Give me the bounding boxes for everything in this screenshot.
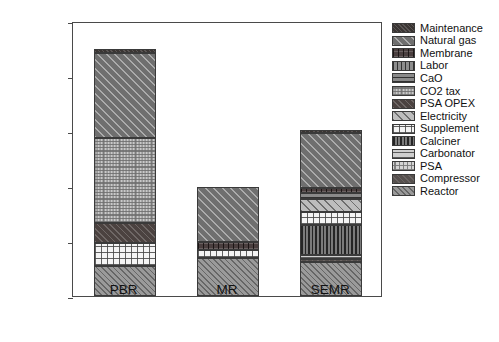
bar-segment-mr-supplement bbox=[197, 250, 259, 257]
legend-swatch-maintenance bbox=[392, 23, 415, 33]
legend-item: Natural gas bbox=[392, 35, 497, 48]
y-axis-tick-mark bbox=[68, 188, 73, 189]
legend-label: Supplement bbox=[420, 123, 479, 134]
legend-label: Electricity bbox=[420, 111, 467, 122]
bar-segment-pbr-maintenance bbox=[94, 49, 156, 54]
bar-segment-semr-compressor bbox=[300, 259, 362, 262]
plot-area bbox=[73, 23, 381, 296]
legend-swatch-compressor bbox=[392, 174, 415, 184]
legend-swatch-psa-opex bbox=[392, 99, 415, 109]
legend-label: CO2 tax bbox=[420, 86, 460, 97]
y-axis-tick-mark bbox=[68, 78, 73, 79]
legend-swatch-supplement bbox=[392, 124, 415, 134]
bar-segment-semr-cao bbox=[300, 193, 362, 199]
legend-label: PSA bbox=[420, 161, 442, 172]
y-axis-tick-mark bbox=[68, 298, 73, 299]
legend-swatch-electricity bbox=[392, 111, 415, 121]
bar-segment-mr-natural-gas bbox=[197, 187, 259, 242]
legend-swatch-cao bbox=[392, 73, 415, 83]
legend-label: Maintenance bbox=[420, 23, 483, 34]
legend-label: PSA OPEX bbox=[420, 98, 475, 109]
bar-segment-semr-maintenance bbox=[300, 130, 362, 133]
y-axis-tick-mark bbox=[68, 133, 73, 134]
legend-item: Compressor bbox=[392, 173, 497, 186]
bar-segment-pbr-psa-opex bbox=[94, 223, 156, 243]
bar-segment-pbr-natural-gas bbox=[94, 53, 156, 137]
legend-swatch-labor bbox=[392, 61, 415, 71]
legend-label: CaO bbox=[420, 73, 443, 84]
bar-segment-pbr-supplement bbox=[94, 243, 156, 266]
plot-frame bbox=[72, 22, 382, 297]
y-axis-tick-mark bbox=[68, 243, 73, 244]
legend-swatch-co2-tax bbox=[392, 86, 415, 96]
bar-segment-mr-membrane bbox=[197, 242, 259, 250]
legend-item: Reactor bbox=[392, 185, 497, 198]
bar-segment-semr-carbonator bbox=[300, 255, 362, 259]
bar-segment-semr-calciner bbox=[300, 225, 362, 255]
legend-item: CaO bbox=[392, 72, 497, 85]
chart-legend: MaintenanceNatural gasMembraneLaborCaOCO… bbox=[392, 22, 497, 198]
legend-swatch-carbonator bbox=[392, 149, 415, 159]
bar-segment-semr-supplement bbox=[300, 212, 362, 225]
legend-label: Natural gas bbox=[420, 35, 476, 46]
bar-mr bbox=[197, 187, 259, 296]
legend-label: Carbonator bbox=[420, 148, 475, 159]
legend-item: PSA OPEX bbox=[392, 97, 497, 110]
legend-item: Carbonator bbox=[392, 147, 497, 160]
legend-swatch-natural-gas bbox=[392, 36, 415, 46]
figure-stacked-bar-chart: Unit H2 production cost/ USD kg-1 Mainte… bbox=[0, 0, 499, 342]
legend-label: Membrane bbox=[420, 48, 473, 59]
bar-segment-pbr-co2-tax bbox=[94, 138, 156, 223]
bar-semr bbox=[300, 130, 362, 296]
y-axis-tick-mark bbox=[68, 23, 73, 24]
x-axis-tick-label-semr: SEMR bbox=[285, 282, 375, 297]
legend-swatch-membrane bbox=[392, 48, 415, 58]
legend-label: Calciner bbox=[420, 136, 460, 147]
legend-item: CO2 tax bbox=[392, 85, 497, 98]
x-axis-tick-label-pbr: PBR bbox=[79, 282, 169, 297]
legend-item: Membrane bbox=[392, 47, 497, 60]
legend-swatch-calciner bbox=[392, 136, 415, 146]
legend-label: Reactor bbox=[420, 186, 459, 197]
legend-swatch-psa bbox=[392, 161, 415, 171]
legend-item: Calciner bbox=[392, 135, 497, 148]
legend-item: Supplement bbox=[392, 122, 497, 135]
legend-label: Labor bbox=[420, 60, 448, 71]
bar-segment-semr-natural-gas bbox=[300, 133, 362, 188]
bar-pbr bbox=[94, 49, 156, 297]
x-axis-tick-label-mr: MR bbox=[182, 282, 272, 297]
legend-item: PSA bbox=[392, 160, 497, 173]
legend-item: Labor bbox=[392, 60, 497, 73]
legend-item: Maintenance bbox=[392, 22, 497, 35]
bar-segment-semr-membrane bbox=[300, 188, 362, 192]
bar-segment-semr-electricity bbox=[300, 199, 362, 212]
legend-swatch-reactor bbox=[392, 186, 415, 196]
legend-label: Compressor bbox=[420, 173, 480, 184]
legend-item: Electricity bbox=[392, 110, 497, 123]
